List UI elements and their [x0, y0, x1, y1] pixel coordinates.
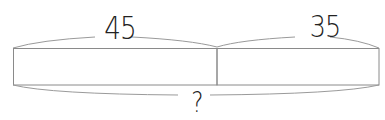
brace-top-right — [217, 37, 295, 47]
brace-top-left — [13, 37, 95, 48]
brace-bottom-left — [13, 85, 178, 95]
segment-left — [14, 49, 218, 86]
total-label: ? — [185, 89, 210, 117]
segment-left-label: 45 — [97, 12, 143, 44]
segment-right-label: 35 — [302, 11, 348, 42]
segment-right — [217, 49, 379, 86]
brace-bottom-right — [210, 85, 379, 95]
brace-top-left-right — [132, 37, 217, 47]
